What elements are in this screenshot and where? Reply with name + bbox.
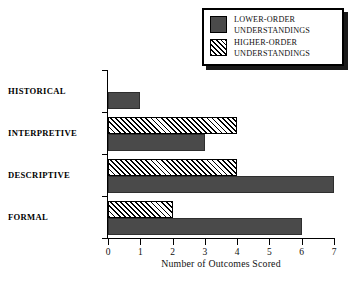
legend-item-higher-order: HIGHER-ORDER UNDERSTANDINGS [210,38,310,59]
legend-label-higher-order-line1: HIGHER-ORDER [234,38,310,49]
category-label-historical: HISTORICAL [0,86,108,96]
category-label-interpretive: INTERPRETIVE [0,128,108,138]
bar-chart-figure: LOWER-ORDER UNDERSTANDINGS HIGHER-ORDER … [0,0,355,286]
x-axis-tick-label: 0 [98,247,118,257]
bar-lower-order [108,176,334,193]
y-axis-tick [102,154,108,155]
x-axis-tick [205,239,206,245]
category-label-formal: FORMAL [0,212,108,222]
legend-label-lower-order-line2: UNDERSTANDINGS [234,26,310,37]
x-axis-tick [237,239,238,245]
legend-label-lower-order: LOWER-ORDER UNDERSTANDINGS [234,15,310,36]
y-axis-tick [102,196,108,197]
bar-lower-order [108,134,205,151]
legend-swatch-solid-icon [210,16,227,33]
x-axis-title: Number of Outcomes Scored [108,258,334,269]
x-axis-tick-label: 7 [324,247,344,257]
chart-legend: LOWER-ORDER UNDERSTANDINGS HIGHER-ORDER … [202,8,348,70]
legend-item-lower-order: LOWER-ORDER UNDERSTANDINGS [210,15,310,36]
x-axis-tick-label: 4 [227,247,247,257]
x-axis-tick [173,239,174,245]
x-axis-tick [140,239,141,245]
x-axis-tick [269,239,270,245]
legend-label-higher-order: HIGHER-ORDER UNDERSTANDINGS [234,38,310,59]
x-axis-tick-label: 6 [292,247,312,257]
y-axis-tick [102,112,108,113]
legend-swatch-hatched-icon [210,39,227,56]
y-axis-tick [102,70,108,71]
bar-higher-order [108,201,173,218]
category-label-descriptive: DESCRIPTIVE [0,170,108,180]
x-axis-tick-label: 2 [163,247,183,257]
bar-lower-order [108,218,302,235]
x-axis-tick-label: 3 [195,247,215,257]
x-axis-tick [302,239,303,245]
legend-box: LOWER-ORDER UNDERSTANDINGS HIGHER-ORDER … [202,8,344,66]
plot-area: 01234567 [108,70,334,238]
bar-higher-order [108,159,237,176]
x-axis-tick [108,239,109,245]
bar-higher-order [108,117,237,134]
x-axis-tick-label: 5 [259,247,279,257]
legend-label-lower-order-line1: LOWER-ORDER [234,15,310,26]
x-axis-tick [334,239,335,245]
bar-lower-order [108,92,140,109]
x-axis-tick-label: 1 [130,247,150,257]
legend-label-higher-order-line2: UNDERSTANDINGS [234,49,310,60]
